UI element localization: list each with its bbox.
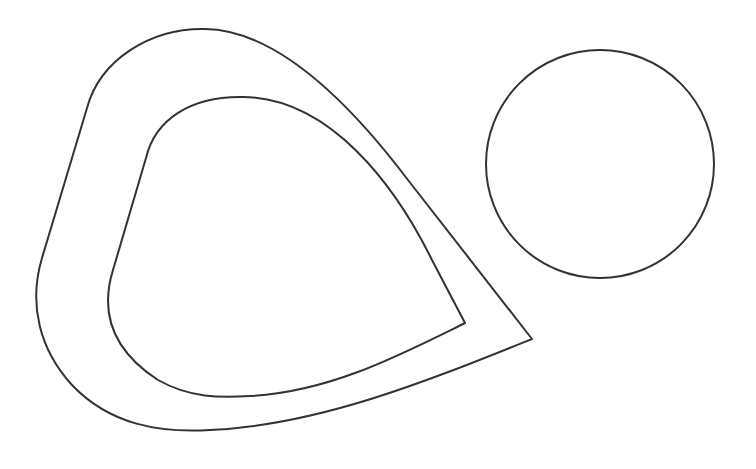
diagram-canvas [0,0,756,469]
inner-teardrop-shape [108,97,465,397]
outer-teardrop-shape [36,29,532,431]
circle-shape [486,50,714,278]
